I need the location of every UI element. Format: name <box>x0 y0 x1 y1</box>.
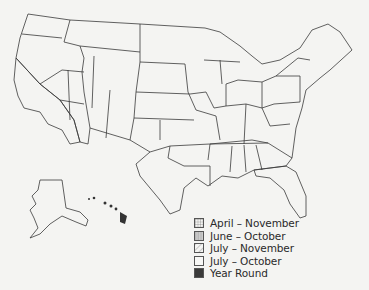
legend-item-year-round: Year Round <box>194 267 299 279</box>
border-wa-or <box>22 34 84 120</box>
legend-item-june-october: June – October <box>194 230 299 242</box>
legend-label: July – October <box>210 255 281 267</box>
vertical-lines-swatch-icon <box>194 231 204 241</box>
legend-label: June – October <box>210 230 285 242</box>
blank-swatch-icon <box>194 256 204 266</box>
region-lower48-outline <box>70 20 352 158</box>
diagonal-lines-swatch-icon <box>194 243 204 253</box>
legend-item-april-november: April – November <box>194 217 299 229</box>
southeast-borders <box>168 144 262 186</box>
interior-state-borders <box>80 24 310 144</box>
crosshatch-swatch-icon <box>194 218 204 228</box>
solid-swatch-icon <box>194 268 204 278</box>
region-florida <box>254 166 306 218</box>
legend-label: April – November <box>210 217 299 229</box>
legend-item-july-november: July – November <box>194 242 299 254</box>
legend: April – November June – October July – N… <box>194 217 299 280</box>
us-season-map <box>0 0 369 290</box>
region-june-october <box>16 14 90 144</box>
hawaii <box>88 197 127 224</box>
legend-item-july-october: July – October <box>194 255 299 267</box>
legend-label: July – November <box>210 242 294 254</box>
legend-label: Year Round <box>210 267 268 279</box>
alaska <box>30 180 88 238</box>
region-southeast <box>136 143 292 214</box>
